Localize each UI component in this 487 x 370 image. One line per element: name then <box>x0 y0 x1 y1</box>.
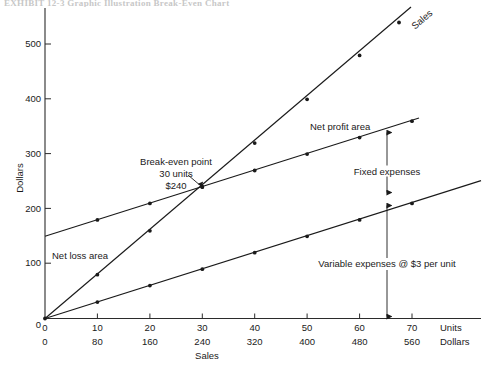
x-tick-units: 10 <box>92 322 103 333</box>
break-even-units: 30 units <box>159 168 193 179</box>
net-profit-area-label: Net profit area <box>310 121 371 132</box>
fixed-expenses-measure: Fixed expenses <box>354 133 421 193</box>
x-tick-dollars: 400 <box>299 336 315 347</box>
y-tick-label: 400 <box>25 93 41 104</box>
x-tick-units: 60 <box>354 322 365 333</box>
x-axis-dollars-caption: Dollars <box>440 336 470 347</box>
series-sales: Sales <box>43 7 434 320</box>
x-tick-dollars: 160 <box>142 336 158 347</box>
y-tick-label: 200 <box>25 203 41 214</box>
axes <box>45 8 481 319</box>
chart-canvas: 500 400 300 200 100 0 Dollars 0 10 20 30… <box>0 0 487 370</box>
x-tick-dollars: 0 <box>42 336 47 347</box>
y-tick-label: 100 <box>25 257 41 268</box>
x-tick-units: 30 <box>197 322 208 333</box>
x-tick-dollars: 320 <box>247 336 263 347</box>
y-axis-title: Dollars <box>14 163 25 193</box>
x-tick-units: 70 <box>407 322 418 333</box>
x-tick-units: 0 <box>42 322 47 333</box>
x-axis-unit-labels: 0 10 20 30 40 50 60 70 <box>42 322 417 333</box>
x-tick-dollars: 240 <box>194 336 210 347</box>
x-tick-units: 50 <box>302 322 313 333</box>
y-axis-tick-labels: 500 400 300 200 100 0 <box>25 38 41 329</box>
break-even-dollars: $240 <box>165 180 186 191</box>
x-axis-units-caption: Units <box>440 322 462 333</box>
y-tick-label: 300 <box>25 148 41 159</box>
y-tick-label-zero: 0 <box>36 319 41 330</box>
variable-expenses-line <box>45 181 481 319</box>
break-even-title: Break-even point <box>140 156 212 167</box>
x-tick-dollars: 560 <box>404 336 420 347</box>
variable-expenses-label: Variable expenses @ $3 per unit <box>318 258 456 269</box>
x-axis-ticks <box>97 314 412 319</box>
fixed-expenses-label-text: Fixed expenses <box>354 166 421 177</box>
y-tick-label: 500 <box>25 38 41 49</box>
sales-line-label: Sales <box>409 7 434 31</box>
x-tick-dollars: 480 <box>352 336 368 347</box>
x-tick-dollars: 80 <box>92 336 103 347</box>
break-even-chart: 500 400 300 200 100 0 Dollars 0 10 20 30… <box>0 0 487 370</box>
sales-line <box>45 7 411 319</box>
series-variable-expenses <box>45 181 481 319</box>
break-even-pointer-arrow <box>188 175 200 185</box>
net-loss-area-label: Net loss area <box>52 250 109 261</box>
x-tick-units: 40 <box>249 322 260 333</box>
y-axis-ticks <box>45 44 51 263</box>
x-axis-dollar-labels: 0 80 160 240 320 400 480 560 <box>42 336 420 347</box>
x-axis-title: Sales <box>195 350 219 361</box>
x-tick-units: 20 <box>145 322 156 333</box>
